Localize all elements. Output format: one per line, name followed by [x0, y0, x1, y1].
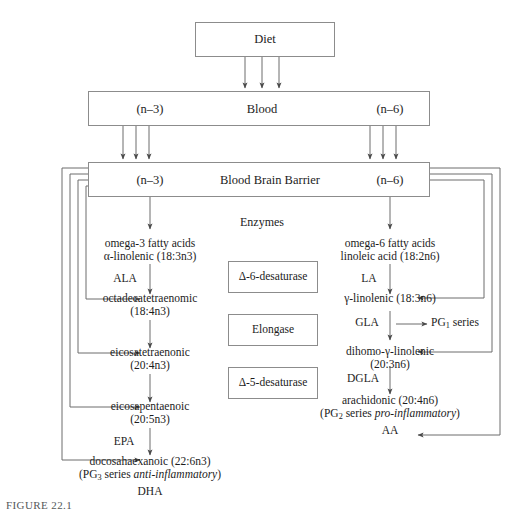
node-line: omega-3 fatty acids [104, 237, 197, 250]
series-note-suffix: ) [217, 468, 221, 480]
series-note-emphasis: pro-inflammatory [375, 407, 456, 419]
node-alpha-linolenic[interactable]: omega-3 fatty acids α-linolenic (18:3n3) [104, 237, 197, 264]
node-line: (20:5n3) [111, 413, 190, 426]
blood-right-tag: (n–6) [376, 103, 403, 116]
node-series-note: (PG3 series anti-inflammatory) [79, 468, 221, 484]
node-eicosapentaenoic[interactable]: eicosapentaenoic (20:5n3) [111, 400, 190, 427]
bbb-right-tag: (n–6) [376, 174, 403, 187]
node-line: eicosapentaenoic [111, 400, 190, 413]
node-docosahaexanoic[interactable]: docosahaexanoic (22:6n3) (PG3 series ant… [79, 455, 221, 498]
node-line: eicosatetraenonic [110, 346, 190, 359]
node-line: dihomo-γ-linolenic [346, 345, 434, 358]
abbrev-aa: AA [320, 424, 460, 437]
enzyme-label: Elongase [252, 324, 294, 336]
enzyme-label: Δ-5-desaturase [239, 377, 308, 389]
abbrev-la: LA [361, 273, 376, 285]
node-linoleic-acid[interactable]: omega-6 fatty acids linoleic acid (18:2n… [341, 237, 440, 264]
node-line: (18:4n3) [103, 305, 198, 318]
series-note-prefix: (PG [79, 468, 98, 480]
pg1-suffix: series [450, 316, 479, 328]
node-line: arachidonic (20:4n6) [320, 394, 460, 407]
enzymes-heading: Enzymes [240, 216, 284, 228]
diet-label: Diet [254, 33, 276, 46]
node-line: (20:4n3) [110, 359, 190, 372]
abbrev-gla: GLA [355, 317, 379, 329]
series-note-suffix: ) [456, 407, 460, 419]
series-note-emphasis: anti-inflammatory [134, 468, 218, 480]
node-line: α-linolenic (18:3n3) [104, 250, 197, 263]
node-line: linoleic acid (18:2n6) [341, 250, 440, 263]
enzyme-label: Δ-6-desaturase [239, 271, 308, 283]
node-gamma-linolenic[interactable]: γ-linolenic (18:3n6) [344, 292, 436, 305]
node-octadecatetraenomic[interactable]: octadecatetraenomic (18:4n3) [103, 292, 198, 319]
node-line: docosahaexanoic (22:6n3) [79, 455, 221, 468]
bbb-left-tag: (n–3) [136, 174, 163, 187]
bbb-label: Blood Brain Barrier [220, 174, 320, 187]
figure-caption: FIGURE 22.1 [6, 500, 72, 511]
node-line: octadecatetraenomic [103, 292, 198, 305]
node-line: γ-linolenic (18:3n6) [344, 292, 436, 305]
node-eicosatetraenonic[interactable]: eicosatetraenonic (20:4n3) [110, 346, 190, 373]
enzyme-box-delta-6-desaturase[interactable]: Δ-6-desaturase [228, 261, 318, 293]
blood-left-tag: (n–3) [136, 103, 163, 116]
diet-box[interactable]: Diet [195, 22, 335, 57]
node-arachidonic[interactable]: arachidonic (20:4n6) (PG2 series pro-inf… [320, 394, 460, 437]
enzyme-box-elongase[interactable]: Elongase [228, 314, 318, 346]
series-note-mid: series [343, 407, 375, 419]
abbrev-epa: EPA [114, 436, 135, 448]
abbrev-dgla: DGLA [347, 373, 379, 385]
pg1-series-label: PG1 series [431, 317, 479, 330]
blood-label: Blood [247, 103, 278, 116]
series-note-prefix: (PG [320, 407, 339, 419]
abbrev-ala: ALA [113, 273, 137, 285]
pg1-prefix: PG [431, 316, 446, 328]
node-line: omega-6 fatty acids [341, 237, 440, 250]
series-note-mid: series [102, 468, 134, 480]
node-series-note: (PG2 series pro-inflammatory) [320, 407, 460, 423]
figure-canvas: Diet (n–3) Blood (n–6) (n–3) Blood Brain… [0, 0, 520, 512]
node-dihomo-gamma-linolenic[interactable]: dihomo-γ-linolenic (20:3n6) [346, 345, 434, 372]
node-line: (20:3n6) [346, 358, 434, 371]
enzyme-box-delta-5-desaturase[interactable]: Δ-5-desaturase [228, 367, 318, 399]
abbrev-dha: DHA [79, 485, 221, 498]
